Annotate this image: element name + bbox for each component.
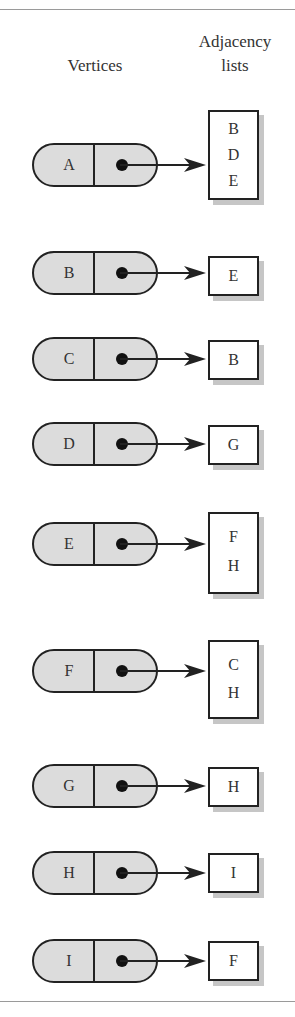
vertex-label: F xyxy=(44,651,94,691)
adjacency-list-b: E xyxy=(208,256,259,296)
vertex-label: G xyxy=(44,766,94,806)
vertex-label: I xyxy=(44,941,94,981)
node-divider xyxy=(93,651,95,691)
adjacency-entry: F xyxy=(210,948,257,974)
pointer-arrow-icon xyxy=(120,352,208,366)
adjacency-heading-line2: lists xyxy=(180,54,290,78)
adjacency-entry: H xyxy=(210,774,257,800)
node-divider xyxy=(93,145,95,185)
adjacency-list-g: H xyxy=(208,767,259,807)
node-divider xyxy=(93,339,95,379)
top-rule xyxy=(0,9,295,10)
node-divider xyxy=(93,253,95,293)
vertex-label: A xyxy=(44,145,94,185)
adjacency-list-i: F xyxy=(208,941,259,981)
adjacency-entry: I xyxy=(210,860,257,886)
pointer-arrow-icon xyxy=(120,866,208,880)
vertex-label: D xyxy=(44,424,94,464)
adjacency-entry: E xyxy=(210,168,257,194)
node-divider xyxy=(93,941,95,981)
adjacency-entry: B xyxy=(210,347,257,373)
adjacency-lists-heading: Adjacency lists xyxy=(180,30,290,78)
vertex-label: E xyxy=(44,524,94,564)
adjacency-entry: B xyxy=(210,116,257,142)
pointer-arrow-icon xyxy=(120,664,208,678)
adjacency-entry: H xyxy=(210,679,257,707)
pointer-arrow-icon xyxy=(120,158,208,172)
pointer-arrow-icon xyxy=(120,779,208,793)
adjacency-entry: G xyxy=(210,432,257,458)
node-divider xyxy=(93,424,95,464)
pointer-arrow-icon xyxy=(120,537,208,551)
adjacency-list-f: C H xyxy=(208,640,259,719)
adjacency-entry: H xyxy=(210,552,257,580)
adjacency-entry: D xyxy=(210,142,257,168)
vertices-heading-text: Vertices xyxy=(45,56,145,76)
adjacency-entry: E xyxy=(210,263,257,289)
pointer-arrow-icon xyxy=(120,437,208,451)
pointer-arrow-icon xyxy=(120,266,208,280)
node-divider xyxy=(93,853,95,893)
vertex-label: C xyxy=(44,339,94,379)
adjacency-list-h: I xyxy=(208,853,259,893)
pointer-arrow-icon xyxy=(120,954,208,968)
adjacency-entry: F xyxy=(210,522,257,552)
node-divider xyxy=(93,524,95,564)
adjacency-list-e: F H xyxy=(208,512,259,594)
vertex-label: B xyxy=(44,253,94,293)
adjacency-heading-line1: Adjacency xyxy=(180,30,290,54)
adjacency-entry: C xyxy=(210,650,257,679)
node-divider xyxy=(93,766,95,806)
adjacency-list-a: B D E xyxy=(208,110,259,200)
adjacency-list-c: B xyxy=(208,340,259,380)
vertex-label: H xyxy=(44,853,94,893)
adjacency-list-d: G xyxy=(208,425,259,465)
bottom-rule xyxy=(0,1001,295,1002)
vertices-heading: Vertices xyxy=(45,56,145,76)
